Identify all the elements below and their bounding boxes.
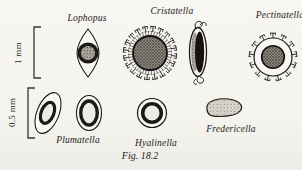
hyalinella-statoblast-drawing xyxy=(135,96,169,130)
cristatella-statoblast-side-drawing xyxy=(182,19,214,85)
plumatella-statoblast-tilted-drawing xyxy=(26,86,70,140)
lophopus-statoblast-drawing xyxy=(67,27,109,79)
pectinatella-statoblast-drawing xyxy=(245,29,301,85)
label-lophopus: Lophopus xyxy=(67,14,106,24)
scale-label-1mm: 1 mm xyxy=(14,42,23,64)
label-pectinatella: Pectinatella xyxy=(256,11,302,21)
label-fredericella: Fredericella xyxy=(206,125,256,135)
figure-18-2: 1 mm 0.5 mm Lophopus Cristatella Pectina… xyxy=(0,0,302,170)
plumatella-statoblast-upright-drawing xyxy=(71,92,107,134)
scale-label-05mm: 0.5 mm xyxy=(8,98,17,127)
scale-bar-1mm xyxy=(32,26,42,80)
label-hyalinella: Hyalinella xyxy=(135,139,177,149)
figure-caption: Fig. 18.2 xyxy=(122,151,158,161)
fredericella-statoblast-drawing xyxy=(202,96,246,120)
cristatella-statoblast-face-drawing xyxy=(119,22,181,84)
label-cristatella: Cristatella xyxy=(151,7,194,17)
